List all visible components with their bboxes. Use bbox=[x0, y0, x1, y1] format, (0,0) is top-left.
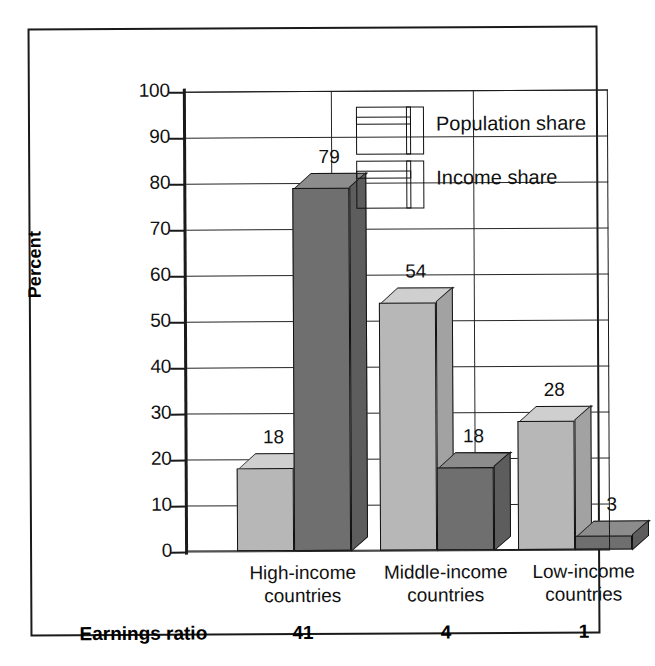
legend-swatch-cube-icon bbox=[356, 161, 411, 199]
y-axis-tick-label: 20 bbox=[126, 448, 172, 470]
legend-item-population-share: Population share bbox=[350, 98, 600, 153]
y-axis-tick bbox=[170, 230, 186, 232]
bar-front-face bbox=[517, 421, 575, 550]
earnings-ratio-values: 4141 bbox=[30, 28, 596, 31]
y-axis-tick bbox=[170, 276, 186, 278]
category-line: countries bbox=[407, 584, 484, 605]
y-axis-tick bbox=[169, 184, 185, 186]
y-axis-tick-label: 30 bbox=[125, 402, 171, 424]
bar-side-face bbox=[349, 172, 368, 552]
y-axis-tick bbox=[171, 506, 187, 508]
y-axis-tick-label: 40 bbox=[125, 356, 171, 378]
bar-value-label: 18 bbox=[248, 426, 298, 448]
bar-value-label: 79 bbox=[304, 145, 354, 167]
gridline bbox=[185, 90, 608, 93]
earnings-ratio-value: 4 bbox=[386, 621, 506, 644]
bar-front-face bbox=[292, 187, 351, 551]
bar-income-share bbox=[575, 521, 649, 550]
bar-income-share bbox=[437, 452, 511, 550]
y-axis-tick-labels: 1009080706050403020100 bbox=[118, 92, 172, 552]
bar-value-label: 54 bbox=[391, 260, 441, 282]
y-axis-tick bbox=[169, 92, 185, 94]
chart-legend: Population share Income share bbox=[350, 98, 601, 214]
earnings-ratio-label: Earnings ratio bbox=[79, 623, 207, 646]
y-axis-tick bbox=[170, 322, 186, 324]
bar-value-label: 3 bbox=[587, 494, 637, 516]
plot-area: 18795418283 Population share Income shar… bbox=[185, 90, 610, 552]
y-axis-tick bbox=[170, 414, 186, 416]
bar-value-label: 28 bbox=[529, 379, 579, 401]
gridlines bbox=[185, 90, 608, 92]
y-axis-tick bbox=[170, 368, 186, 370]
y-axis-tick-label: 90 bbox=[124, 126, 170, 148]
category-line: countries bbox=[545, 583, 622, 604]
bar-front-face bbox=[237, 468, 294, 551]
y-axis-tick-label: 80 bbox=[124, 172, 170, 194]
category-line: countries bbox=[264, 585, 341, 606]
y-axis-tick-label: 70 bbox=[124, 218, 170, 240]
y-axis-tick-label: 100 bbox=[124, 80, 170, 102]
bar-income-share bbox=[292, 172, 368, 551]
figure-frame: 1009080706050403020100 Percent 187954182… bbox=[28, 26, 601, 637]
y-axis-tick bbox=[171, 552, 187, 554]
legend-swatch-cube-icon bbox=[356, 107, 411, 145]
y-axis-tick-label: 60 bbox=[125, 264, 171, 286]
y-axis-tick bbox=[169, 138, 185, 140]
gridline bbox=[186, 228, 609, 231]
earnings-ratio-value: 1 bbox=[524, 620, 644, 643]
legend-label: Income share bbox=[436, 166, 557, 190]
legend-item-income-share: Income share bbox=[350, 152, 600, 207]
bar-front-face bbox=[437, 467, 494, 550]
bar-side-face bbox=[494, 451, 511, 551]
y-axis-tick-label: 10 bbox=[126, 494, 172, 516]
bar-front-face bbox=[575, 536, 632, 550]
bar-value-label: 18 bbox=[448, 425, 498, 447]
y-axis-tick-label: 0 bbox=[126, 540, 172, 562]
category-line: Low-income bbox=[532, 560, 635, 582]
y-axis-title: Percent bbox=[25, 231, 46, 299]
category-line: High-income bbox=[249, 562, 356, 584]
earnings-ratio-value: 41 bbox=[243, 622, 363, 645]
legend-label: Population share bbox=[436, 112, 586, 136]
bar-front-face bbox=[379, 302, 437, 551]
x-axis-category-labels: High-incomecountriesMiddle-incomecountri… bbox=[30, 28, 596, 31]
x-axis-category-label: Low-incomecountries bbox=[489, 559, 655, 606]
y-axis-tick-label: 50 bbox=[125, 310, 171, 332]
y-axis-tick bbox=[171, 460, 187, 462]
